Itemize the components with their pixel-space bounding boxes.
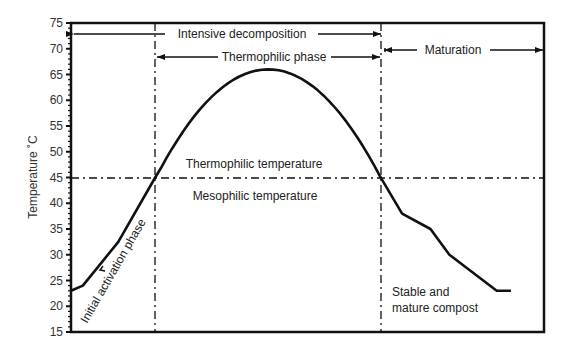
stable-label-line1: Stable and	[392, 285, 449, 299]
svg-text:20: 20	[50, 299, 64, 313]
y-axis-label: Temperature ˚C	[26, 135, 40, 219]
svg-text:45: 45	[50, 171, 64, 185]
temperature-curve	[71, 69, 511, 290]
svg-text:75: 75	[50, 16, 64, 30]
thermophilic-phase-label: Thermophilic phase	[222, 50, 327, 64]
svg-text:70: 70	[50, 42, 64, 56]
svg-text:40: 40	[50, 196, 64, 210]
maturation-label: Maturation	[425, 43, 482, 57]
initial-activation-label: Initial activation phase	[77, 216, 148, 326]
mesophilic-temperature-label: Mesophilic temperature	[193, 189, 318, 203]
svg-text:30: 30	[50, 248, 64, 262]
compost-temperature-chart: 15202530354045505560657075 Temperature ˚…	[0, 0, 570, 358]
svg-text:55: 55	[50, 119, 64, 133]
y-axis: 15202530354045505560657075	[50, 16, 71, 339]
svg-text:65: 65	[50, 68, 64, 82]
intensive-decomposition-label: Intensive decomposition	[178, 27, 307, 41]
initial-pointer-arrow	[100, 266, 105, 271]
thermophilic-temperature-label: Thermophilic temperature	[186, 157, 323, 171]
svg-text:15: 15	[50, 325, 64, 339]
svg-text:35: 35	[50, 222, 64, 236]
stable-label-line2: mature compost	[392, 301, 479, 315]
svg-text:25: 25	[50, 274, 64, 288]
svg-text:60: 60	[50, 93, 64, 107]
svg-text:50: 50	[50, 145, 64, 159]
